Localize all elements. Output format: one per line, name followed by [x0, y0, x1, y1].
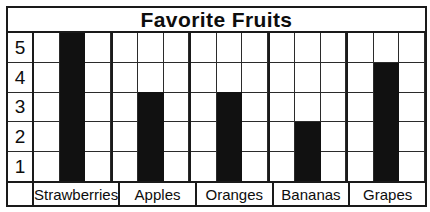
bar-column — [113, 33, 192, 181]
bar — [138, 92, 164, 181]
category-label: Apples — [120, 183, 197, 205]
y-axis-tick: 2 — [8, 122, 32, 152]
bar — [60, 33, 86, 181]
y-axis-tick: 5 — [8, 33, 32, 63]
y-axis-tick: 4 — [8, 63, 32, 93]
grid-subcell — [399, 33, 425, 181]
grid-subcell — [242, 33, 268, 181]
axis-corner-cell — [8, 183, 34, 205]
y-axis-tick: 1 — [8, 152, 32, 181]
grid-subcell — [321, 33, 347, 181]
grid-subcell — [34, 33, 60, 181]
bars-region — [34, 33, 425, 181]
bar — [217, 92, 243, 181]
y-axis-tick: 3 — [8, 93, 32, 123]
bar-column — [348, 33, 425, 181]
category-label: Oranges — [197, 183, 274, 205]
bar-chart: Favorite Fruits 5 4 3 2 1 — [6, 6, 427, 207]
grid-subcell — [164, 33, 190, 181]
bar — [374, 63, 400, 181]
bar-column — [191, 33, 270, 181]
grid-subcell — [191, 33, 217, 181]
category-labels: Strawberries Apples Oranges Bananas Grap… — [34, 183, 425, 205]
category-label: Strawberries — [34, 183, 120, 205]
bar-column — [34, 33, 113, 181]
grid-subcell — [270, 33, 296, 181]
x-axis-label-row: Strawberries Apples Oranges Bananas Grap… — [8, 181, 425, 205]
bar — [295, 122, 321, 181]
category-columns — [34, 33, 425, 181]
category-label: Grapes — [350, 183, 425, 205]
category-label: Bananas — [274, 183, 351, 205]
chart-title-band: Favorite Fruits — [8, 8, 425, 33]
plot-area: 5 4 3 2 1 — [8, 33, 425, 181]
grid-subcell — [348, 33, 374, 181]
y-axis: 5 4 3 2 1 — [8, 33, 34, 181]
page-title: Favorite Fruits — [141, 9, 293, 30]
grid-subcell — [85, 33, 111, 181]
grid-subcell — [113, 33, 139, 181]
bar-column — [270, 33, 349, 181]
